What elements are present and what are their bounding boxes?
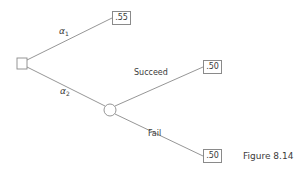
figure-caption: Figure 8.14 bbox=[243, 151, 293, 162]
payoff-box-fail: .50 bbox=[203, 149, 222, 163]
branch-succeed-label: Succeed bbox=[134, 68, 168, 78]
branch-a2-label: α2 bbox=[60, 86, 70, 99]
payoff-box-succeed: .50 bbox=[203, 60, 222, 74]
branch-fail-label: Fail bbox=[148, 129, 161, 139]
branch-a2-subscript: 2 bbox=[66, 90, 70, 97]
branch-a1-label: α1 bbox=[59, 26, 69, 39]
chance-node-circle bbox=[104, 104, 116, 116]
payoff-box-a1: .55 bbox=[112, 11, 131, 25]
branch-a1-line bbox=[27, 18, 112, 60]
decision-tree-diagram bbox=[0, 0, 305, 172]
decision-node-square bbox=[17, 58, 27, 69]
branch-a1-subscript: 1 bbox=[65, 30, 69, 37]
